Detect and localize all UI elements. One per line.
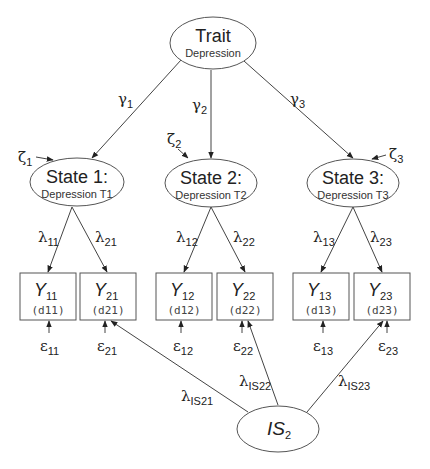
zeta-1-label: ζ1 — [18, 148, 32, 168]
state-3-title: State 3: — [322, 168, 384, 188]
state-node-2: State 2: Depression T2 — [165, 159, 257, 207]
state-node-3: State 3: Depression T3 — [307, 159, 399, 207]
zeta-1-arrow — [36, 157, 53, 160]
error-arrows — [49, 321, 387, 333]
zeta-3-label: ζ3 — [389, 145, 403, 165]
gamma-3-label: γ3 — [290, 90, 305, 110]
state-1-title: State 1: — [46, 167, 108, 187]
y23-code: (d23) — [365, 304, 398, 317]
indicator-specific-paths — [111, 321, 383, 412]
trait-subtitle: Depression — [185, 47, 241, 59]
lambda-is22-label: λIS22 — [239, 372, 271, 392]
lambda-12-label: λ12 — [176, 228, 198, 248]
lambda-23-label: λ23 — [370, 228, 392, 248]
y11-code: (d11) — [31, 304, 64, 317]
lambda-is23-label: λIS23 — [338, 372, 370, 392]
y12-code: (d12) — [167, 304, 200, 317]
trait-title: Trait — [195, 26, 230, 46]
state-node-1: State 1: Depression T1 — [30, 158, 124, 206]
epsilon-13-label: ε13 — [313, 337, 333, 357]
lambda-13-label: λ13 — [313, 228, 335, 248]
latent-state-trait-diagram: γ1 γ2 γ3 ζ1 ζ2 ζ3 Trait Depression State… — [0, 0, 430, 469]
indicator-box-y21: Y21 (d21) — [80, 273, 136, 320]
y22-code: (d22) — [228, 304, 261, 317]
indicator-box-y11: Y11 (d11) — [20, 273, 76, 320]
state-3-subtitle: Depression T3 — [317, 189, 388, 201]
gamma-2-label: γ2 — [192, 96, 207, 116]
trait-node: Trait Depression — [170, 17, 256, 69]
y13-code: (d13) — [304, 304, 337, 317]
lambda-22-label: λ22 — [233, 228, 255, 248]
state-1-subtitle: Depression T1 — [41, 188, 112, 200]
indicator-box-y22: Y22 (d22) — [217, 273, 273, 320]
indicator-box-y12: Y12 (d12) — [156, 273, 212, 320]
state-2-title: State 2: — [180, 168, 242, 188]
epsilon-23-label: ε23 — [378, 337, 398, 357]
state-2-subtitle: Depression T2 — [175, 189, 246, 201]
epsilon-11-label: ε11 — [40, 337, 59, 357]
path-lambda-is21 — [111, 321, 248, 412]
indicator-specific-node: IS2 — [237, 406, 319, 452]
zeta-2-label: ζ2 — [167, 130, 181, 150]
epsilon-21-label: ε21 — [97, 337, 117, 357]
epsilon-22-label: ε22 — [233, 337, 253, 357]
lambda-is21-label: λIS21 — [181, 387, 213, 407]
path-lambda-is23 — [307, 321, 383, 412]
y21-code: (d21) — [91, 304, 124, 317]
indicator-box-y13: Y13 (d13) — [293, 273, 349, 320]
path-lambda-is22 — [248, 321, 278, 405]
indicator-box-y23: Y23 (d23) — [354, 273, 410, 320]
lambda-11-label: λ11 — [38, 228, 59, 248]
lambda-21-label: λ21 — [95, 228, 117, 248]
epsilon-12-label: ε12 — [173, 337, 193, 357]
zeta-2-arrow — [178, 149, 188, 158]
gamma-1-label: γ1 — [118, 90, 133, 110]
zeta-3-arrow — [372, 155, 386, 159]
